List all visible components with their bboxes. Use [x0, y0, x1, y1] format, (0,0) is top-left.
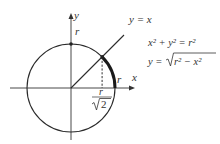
equation-upper-lhs: y =	[148, 57, 162, 68]
top-point-label: r	[75, 26, 79, 37]
diagram-canvas	[0, 0, 220, 144]
y-axis-arrow-icon	[69, 13, 74, 19]
point-intersection	[100, 55, 104, 59]
equation-circle: x² + y² = r²	[148, 38, 196, 49]
right-point-label: r	[117, 74, 121, 85]
x-axis-label: x	[132, 72, 137, 83]
x-axis-arrow-icon	[129, 86, 135, 91]
foot-denominator: 2	[101, 99, 107, 110]
y-axis-label: y	[74, 10, 79, 21]
highlighted-arc	[102, 57, 115, 88]
foot-numerator: r	[99, 87, 103, 97]
line-label: y = x	[129, 14, 152, 25]
point-top	[69, 42, 73, 46]
equation-upper-radicand: r² − x²	[174, 57, 201, 68]
